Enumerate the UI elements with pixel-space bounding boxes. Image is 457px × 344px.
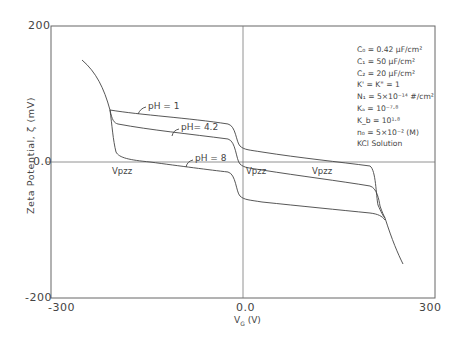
param-solution: KCl Solution: [357, 138, 434, 150]
param-k: K' = K" = 1: [357, 79, 434, 91]
y-tick-label-top: 200: [28, 19, 51, 32]
label-ph1: pH = 1: [148, 101, 179, 111]
x-axis-title-unit: (V): [245, 315, 261, 325]
x-tick-label-right: 300: [419, 301, 442, 314]
x-tick-label-mid: 0.0: [236, 301, 255, 314]
param-n1: N₁ = 5×10⁻¹⁴ #/cm²: [357, 91, 434, 103]
label-ph42: pH= 4.2: [181, 122, 218, 132]
param-kb: K_b = 10¹·⁸: [357, 115, 434, 127]
param-n0: n₀ = 5×10⁻² (M): [357, 127, 434, 139]
param-ca: C₀ = 0.42 μF/cm²: [357, 44, 434, 56]
parameter-legend: C₀ = 0.42 μF/cm² C₁ = 50 μF/cm² C₂ = 20 …: [357, 44, 434, 150]
x-axis-title: VG (V): [234, 315, 261, 327]
leader-ph1: [138, 107, 146, 114]
y-tick-label-mid: 0.0: [33, 155, 52, 168]
label-ph8: pH = 8: [195, 153, 226, 163]
curve-ph8: [110, 110, 385, 220]
leader-ph8: [186, 160, 193, 167]
param-ka: Kₐ = 10⁻⁷·⁸: [357, 103, 434, 115]
vpzz-label-center: Vpzz: [246, 166, 266, 176]
x-tick-label-left: -300: [48, 301, 75, 314]
param-c1: C₁ = 50 μF/cm²: [357, 56, 434, 68]
vpzz-label-right: Vpzz: [312, 166, 332, 176]
curve-ph42: [110, 110, 385, 218]
param-c2: C₂ = 20 μF/cm²: [357, 68, 434, 80]
y-axis-title: Zeta Potential, ζ (mV): [25, 96, 36, 216]
vpzz-label-left: Vpzz: [112, 166, 132, 176]
